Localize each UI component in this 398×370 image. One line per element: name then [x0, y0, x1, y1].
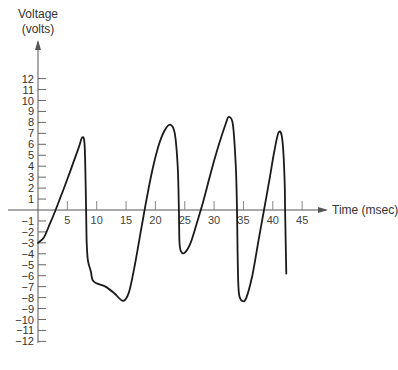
voltage-time-chart: Voltage (volts) 121110987654321−1−2−3−4−…	[0, 0, 398, 370]
x-axis-title: Time (msec)	[332, 203, 398, 217]
axes	[8, 40, 328, 343]
x-tick-label: 45	[296, 214, 308, 226]
y-axis-title-line1: Voltage	[18, 7, 58, 21]
x-tick-label: 10	[91, 214, 103, 226]
y-tick-label: −12	[15, 335, 34, 347]
x-tick-label: 25	[179, 214, 191, 226]
y-axis-arrow-icon	[35, 40, 41, 50]
x-tick-label: 5	[64, 214, 70, 226]
y-axis-title: Voltage (volts)	[18, 7, 58, 36]
y-tick-label: 1	[28, 193, 34, 205]
x-tick-label: 30	[208, 214, 220, 226]
x-tick-label: 40	[267, 214, 279, 226]
voltage-curve	[38, 117, 286, 301]
x-tick-label: 35	[237, 214, 249, 226]
y-axis-title-line2: (volts)	[22, 22, 55, 36]
x-tick-label: 20	[149, 214, 161, 226]
x-axis-ticks: 51015202530354045	[64, 201, 308, 226]
x-axis-arrow-icon	[318, 207, 328, 213]
x-tick-label: 15	[120, 214, 132, 226]
